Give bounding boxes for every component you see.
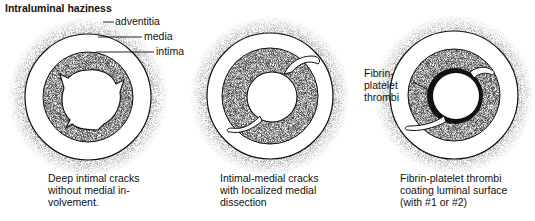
label-media: media [144,31,173,42]
panel-2-intimal-medial-cracks [190,16,350,176]
caption-panel-2: Intimal-medial cracks with localized med… [220,172,319,208]
label-intima: intima [156,46,184,57]
label-fibrin-platelet-thrombi: Fibrin- platelet thrombi [364,67,399,103]
caption-panel-1: Deep intimal cracks without medial in- v… [48,172,140,208]
caption-panel-3: Fibrin-platelet thrombi coating luminal … [400,172,507,208]
label-adventitia: adventitia [115,16,160,27]
diagram-title: Intraluminal haziness [5,2,112,14]
